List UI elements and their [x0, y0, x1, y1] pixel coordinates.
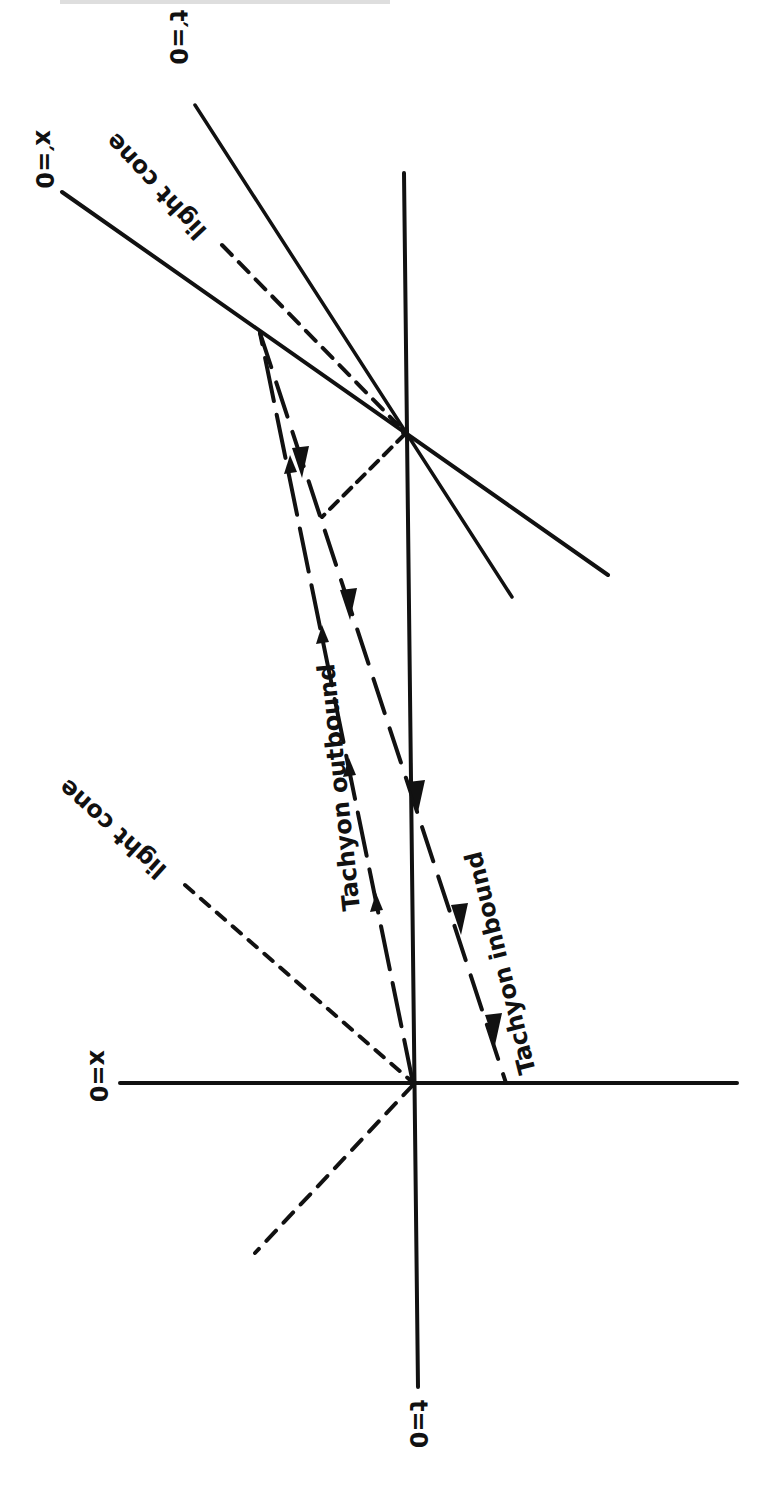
light-cone-lower-label: light cone	[53, 773, 172, 884]
event-point	[401, 428, 409, 436]
t-axis-label: t=0	[404, 1400, 432, 1448]
light-cone-lower-line	[185, 885, 410, 1080]
t-prime-axis-label: t′=0	[164, 10, 192, 65]
spacetime-diagram: t′=0 x′=0 light cone light cone Tachyon …	[0, 0, 775, 1499]
light-cone-upper-label: light cone	[100, 127, 212, 245]
x-prime-axis-line	[62, 192, 608, 575]
tachyon-inbound-label: Tachyon inbound	[459, 849, 541, 1078]
signal-link-line	[322, 434, 405, 517]
x-prime-axis-label: x′=0	[30, 130, 58, 189]
tachyon-inbound-line	[260, 333, 506, 1083]
light-cone-upper-line	[222, 245, 398, 425]
light-cone-lower-extension	[255, 1085, 413, 1253]
t-prime-axis-line	[195, 105, 512, 597]
x-axis-label: x=0	[84, 1050, 112, 1102]
tachyon-outbound-label: Tachyon outbound	[312, 662, 366, 912]
origin-point	[410, 1080, 417, 1087]
